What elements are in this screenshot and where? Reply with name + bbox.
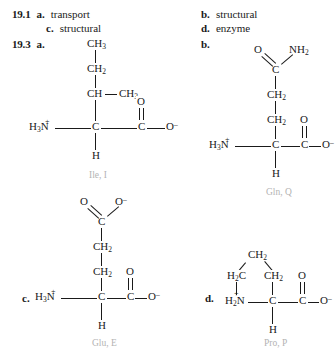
pro-carboxyl-carbon: C: [298, 295, 307, 306]
pro-h2c-left: H2C: [226, 270, 247, 282]
pro-ch2-right: CH2: [263, 270, 284, 282]
pro-oxygen-anion: O–: [319, 295, 333, 306]
structure-proline: CH2 H2C CH2 H2N + C C O– O H Pro, P: [0, 0, 336, 356]
pro-double-bond-right: [304, 282, 305, 294]
pro-carbonyl-oxygen: O: [297, 270, 307, 281]
pro-ch2-top: CH2: [247, 249, 268, 261]
pro-double-bond-left: [300, 282, 301, 294]
pro-alpha-carbon: C: [268, 295, 277, 306]
pro-nitrogen-charge: +: [234, 290, 239, 298]
pro-name-label: Pro, P: [264, 338, 287, 348]
answer-key-page: 19.1 a. transport b. structural c. struc…: [0, 0, 336, 356]
pro-alpha-hydrogen: H: [268, 324, 278, 335]
pro-bond-n-ca: [248, 302, 268, 303]
